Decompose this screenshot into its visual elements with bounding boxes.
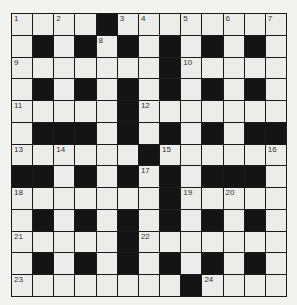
crossword-cell[interactable] [75,14,95,35]
crossword-cell[interactable]: 14 [54,145,74,166]
crossword-cell[interactable] [97,145,117,166]
crossword-cell[interactable] [97,123,117,144]
crossword-cell[interactable]: 1 [12,14,32,35]
crossword-cell[interactable] [139,253,159,274]
crossword-cell[interactable] [54,188,74,209]
crossword-cell[interactable] [54,79,74,100]
crossword-cell[interactable] [139,188,159,209]
crossword-cell[interactable] [224,275,244,296]
crossword-cell[interactable] [139,275,159,296]
crossword-cell[interactable] [245,232,265,253]
crossword-cell[interactable] [12,36,32,57]
crossword-cell[interactable]: 20 [224,188,244,209]
crossword-cell[interactable] [75,275,95,296]
crossword-cell[interactable] [33,58,53,79]
crossword-cell[interactable] [266,101,286,122]
crossword-cell[interactable] [181,101,201,122]
crossword-cell[interactable] [202,58,222,79]
crossword-cell[interactable] [97,101,117,122]
crossword-cell[interactable]: 11 [12,101,32,122]
crossword-cell[interactable] [224,36,244,57]
crossword-cell[interactable] [33,145,53,166]
crossword-cell[interactable] [54,166,74,187]
crossword-cell[interactable]: 16 [266,145,286,166]
crossword-cell[interactable] [224,58,244,79]
crossword-cell[interactable] [97,253,117,274]
crossword-cell[interactable]: 18 [12,188,32,209]
crossword-cell[interactable] [118,145,138,166]
crossword-cell[interactable] [97,79,117,100]
crossword-cell[interactable]: 24 [202,275,222,296]
crossword-cell[interactable] [97,232,117,253]
crossword-cell[interactable] [266,79,286,100]
crossword-cell[interactable] [75,145,95,166]
crossword-cell[interactable] [118,188,138,209]
crossword-cell[interactable] [139,79,159,100]
crossword-cell[interactable] [33,101,53,122]
crossword-cell[interactable]: 19 [181,188,201,209]
crossword-cell[interactable] [181,123,201,144]
crossword-cell[interactable] [224,232,244,253]
crossword-cell[interactable] [224,123,244,144]
crossword-cell[interactable] [33,14,53,35]
crossword-cell[interactable]: 10 [181,58,201,79]
crossword-cell[interactable]: 4 [139,14,159,35]
crossword-cell[interactable]: 2 [54,14,74,35]
crossword-cell[interactable]: 3 [118,14,138,35]
crossword-cell[interactable] [97,188,117,209]
crossword-cell[interactable] [75,232,95,253]
crossword-cell[interactable] [202,101,222,122]
crossword-cell[interactable] [139,210,159,231]
crossword-cell[interactable] [97,58,117,79]
crossword-cell[interactable] [266,58,286,79]
crossword-cell[interactable] [12,210,32,231]
crossword-cell[interactable] [181,232,201,253]
crossword-cell[interactable]: 7 [266,14,286,35]
crossword-cell[interactable] [224,145,244,166]
crossword-cell[interactable] [160,14,180,35]
crossword-cell[interactable]: 22 [139,232,159,253]
crossword-cell[interactable] [202,14,222,35]
crossword-cell[interactable]: 13 [12,145,32,166]
crossword-cell[interactable]: 9 [12,58,32,79]
crossword-cell[interactable] [202,188,222,209]
crossword-cell[interactable]: 5 [181,14,201,35]
crossword-cell[interactable] [245,188,265,209]
crossword-cell[interactable] [266,275,286,296]
crossword-cell[interactable] [224,210,244,231]
crossword-cell[interactable]: 12 [139,101,159,122]
crossword-cell[interactable] [224,101,244,122]
crossword-cell[interactable] [97,275,117,296]
crossword-cell[interactable] [54,101,74,122]
crossword-cell[interactable] [75,58,95,79]
crossword-cell[interactable] [160,101,180,122]
crossword-cell[interactable] [33,275,53,296]
crossword-cell[interactable] [181,166,201,187]
crossword-cell[interactable] [181,145,201,166]
crossword-cell[interactable] [54,232,74,253]
crossword-cell[interactable]: 8 [97,36,117,57]
crossword-cell[interactable] [12,79,32,100]
crossword-cell[interactable] [12,253,32,274]
crossword-cell[interactable] [266,210,286,231]
crossword-cell[interactable] [33,232,53,253]
crossword-cell[interactable] [75,188,95,209]
crossword-cell[interactable]: 21 [12,232,32,253]
crossword-cell[interactable] [54,275,74,296]
crossword-cell[interactable] [245,58,265,79]
crossword-cell[interactable] [202,232,222,253]
crossword-cell[interactable] [97,210,117,231]
crossword-cell[interactable]: 15 [160,145,180,166]
crossword-cell[interactable] [54,36,74,57]
crossword-cell[interactable] [266,188,286,209]
crossword-cell[interactable] [181,36,201,57]
crossword-cell[interactable] [33,188,53,209]
crossword-cell[interactable] [245,14,265,35]
crossword-cell[interactable] [224,253,244,274]
crossword-cell[interactable]: 6 [224,14,244,35]
crossword-cell[interactable]: 23 [12,275,32,296]
crossword-cell[interactable] [266,253,286,274]
crossword-cell[interactable] [224,79,244,100]
crossword-cell[interactable] [266,36,286,57]
crossword-cell[interactable] [160,275,180,296]
